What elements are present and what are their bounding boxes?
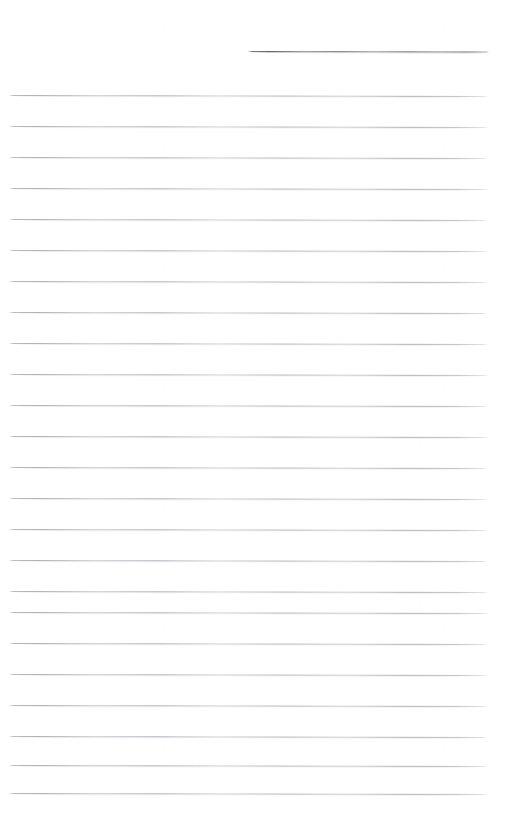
header-line — [248, 51, 489, 52]
ruled-line — [9, 188, 488, 190]
ruled-line — [9, 281, 488, 283]
ruled-line — [9, 498, 488, 500]
ruled-line — [9, 95, 488, 97]
ruled-line — [9, 250, 488, 252]
scanned-page — [0, 0, 510, 830]
ruled-line — [9, 674, 488, 676]
ruled-line — [9, 436, 488, 438]
ruled-line — [9, 219, 488, 221]
ruled-line — [9, 560, 488, 562]
ruled-line — [9, 643, 488, 645]
ruled-line — [9, 343, 488, 345]
ruled-line — [9, 793, 488, 795]
ruled-line — [9, 765, 488, 767]
ruled-line — [9, 157, 488, 159]
ruled-line — [9, 529, 488, 531]
ruled-line — [9, 405, 488, 407]
ruled-line — [9, 612, 488, 614]
ruled-line — [9, 126, 488, 128]
ruled-line — [9, 591, 488, 593]
ruled-line — [9, 312, 488, 314]
ruled-line — [9, 736, 488, 738]
ruled-line — [9, 467, 488, 469]
ruled-line — [9, 705, 488, 707]
ruled-line — [9, 374, 488, 376]
